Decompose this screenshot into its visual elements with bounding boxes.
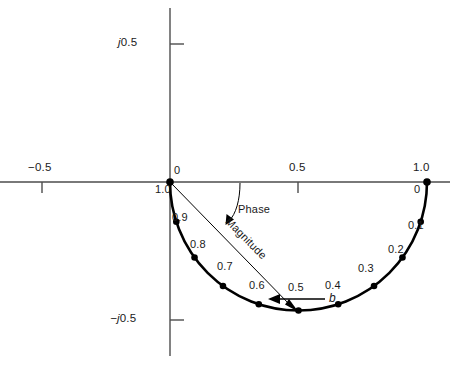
axis-label-minus-half: −0.5	[28, 161, 52, 173]
point-label-right-bottom: 0	[414, 183, 420, 195]
polar-plot-figure: −0.5 0.5 1.0 j0.5 −j0.5 0 1.0 0 0.1 0.2 …	[0, 0, 450, 365]
point-label-0-9: 0.9	[172, 211, 188, 223]
neg-j-half-value: 0.5	[120, 312, 137, 324]
point-label-0-7: 0.7	[217, 260, 233, 272]
neg-j-symbol: −j	[110, 312, 120, 324]
axis-label-one: 1.0	[413, 161, 430, 173]
point-label-0-4: 0.4	[325, 279, 341, 291]
axis-label-half: 0.5	[289, 161, 306, 173]
point-label-0-8: 0.8	[190, 238, 206, 250]
j-half-value: 0.5	[121, 36, 138, 48]
marker-b-0-8	[191, 254, 198, 261]
direction-arrow-group	[268, 294, 325, 304]
marker-b-0-3	[371, 283, 378, 290]
point-label-0-1: 0.1	[408, 219, 424, 231]
point-label-origin-bottom: 1.0	[155, 183, 171, 195]
marker-b-0-6	[255, 301, 262, 308]
plot-canvas	[0, 0, 450, 365]
direction-parameter-label: b	[329, 291, 336, 305]
axis-label-j-half: j0.5	[118, 36, 137, 48]
point-label-0-6: 0.6	[249, 279, 265, 291]
marker-b-0-2	[399, 254, 406, 261]
direction-arrowhead	[268, 294, 280, 304]
marker-b-0	[423, 178, 431, 186]
point-label-origin-top: 0	[174, 164, 180, 176]
phase-label: Phase	[238, 203, 270, 215]
axes-group	[0, 8, 450, 356]
point-label-0-2: 0.2	[388, 243, 404, 255]
marker-b-0-5	[295, 307, 302, 314]
marker-b-0-7	[220, 283, 227, 290]
point-label-0-5: 0.5	[288, 281, 304, 293]
axis-label-neg-j-half: −j0.5	[110, 312, 136, 324]
point-label-0-3: 0.3	[358, 262, 374, 274]
